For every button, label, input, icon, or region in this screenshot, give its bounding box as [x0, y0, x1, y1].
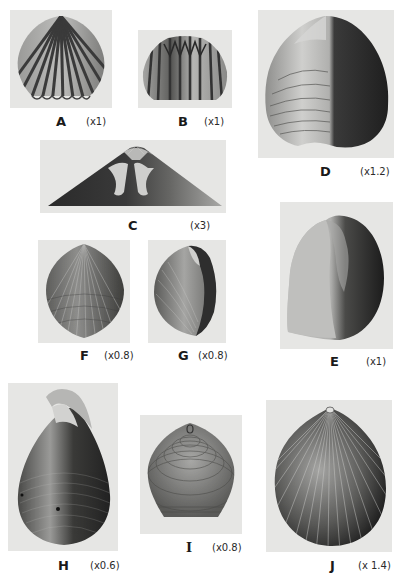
- ribbed-shell-g-illustration: [148, 240, 226, 343]
- figure-f-scale: (x0.8): [104, 350, 134, 361]
- figure-i-scale: (x0.8): [212, 542, 242, 553]
- figure-i-panel: [140, 415, 242, 534]
- radial-ribbed-shell-j-illustration: [266, 400, 392, 552]
- figure-e-panel: [280, 202, 393, 349]
- pyriform-shell-h-illustration: [8, 383, 118, 551]
- ribbed-shell-b-illustration: [138, 30, 232, 108]
- ribbed-shell-a-illustration: [10, 10, 112, 108]
- figure-i-letter: I: [186, 540, 192, 555]
- figure-f-letter: F: [80, 348, 89, 363]
- figure-h-panel: [8, 383, 118, 551]
- smooth-shell-d-illustration: [258, 10, 394, 158]
- figure-h-letter: H: [58, 558, 69, 573]
- figure-j-scale: (x 1.4): [358, 560, 391, 571]
- figure-j-letter: J: [330, 558, 335, 573]
- figure-c-letter: C: [128, 218, 138, 233]
- hinge-detail-c-illustration: [40, 140, 226, 213]
- figure-a-panel: [10, 10, 112, 108]
- figure-b-scale: (x1): [204, 116, 224, 127]
- figure-e-letter: E: [330, 354, 339, 369]
- figure-d-panel: [258, 10, 394, 158]
- figure-f-panel: [38, 240, 130, 343]
- figure-c-scale: (x3): [190, 220, 210, 231]
- figure-a-scale: (x1): [86, 116, 106, 127]
- smooth-shell-e-illustration: [280, 202, 393, 349]
- figure-a-letter: A: [56, 114, 66, 129]
- figure-b-panel: [138, 30, 232, 108]
- figure-g-letter: G: [178, 348, 189, 363]
- figure-d-letter: D: [320, 164, 331, 179]
- figure-g-scale: (x0.8): [198, 350, 228, 361]
- concentric-shell-i-illustration: [140, 415, 242, 534]
- figure-g-panel: [148, 240, 226, 343]
- figure-e-scale: (x1): [366, 356, 386, 367]
- figure-d-scale: (x1.2): [360, 166, 390, 177]
- figure-h-scale: (x0.6): [90, 560, 120, 571]
- ribbed-shell-f-illustration: [38, 240, 130, 343]
- figure-c-panel: [40, 140, 226, 213]
- figure-b-letter: B: [178, 114, 188, 129]
- figure-j-panel: [266, 400, 392, 552]
